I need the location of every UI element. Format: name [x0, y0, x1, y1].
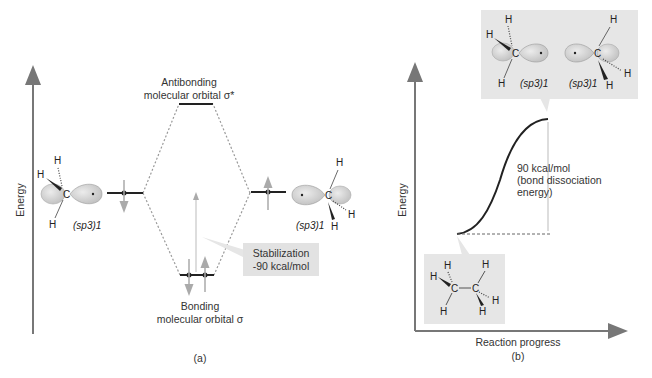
callout-pointer [202, 237, 245, 258]
figure-canvas: Energy Antibonding molecular orbital σ* [0, 0, 652, 378]
right-orbital-label: (sp3)1 [296, 220, 324, 231]
x-axis-label: Reaction progress [475, 336, 560, 348]
left-orbital-label: (sp3)1 [73, 220, 101, 231]
svg-text:H: H [331, 221, 338, 232]
svg-text:C: C [63, 189, 70, 200]
svg-text:H: H [430, 271, 437, 282]
right-methyl-radical: C H H H (sp3)1 [292, 157, 355, 232]
svg-text:H: H [610, 14, 617, 25]
dissociation-label-1: 90 kcal/mol [517, 162, 570, 174]
left-methyl-radical: C H H H (sp3)1 [37, 155, 102, 231]
svg-text:H: H [505, 14, 512, 25]
ethane-box [424, 254, 505, 324]
svg-text:C: C [325, 190, 332, 201]
svg-text:H: H [624, 68, 631, 79]
antibonding-label-2: molecular orbital σ* [144, 89, 235, 101]
svg-text:H: H [54, 155, 61, 166]
svg-text:C: C [594, 48, 601, 59]
panel-b: Energy Reaction progress (b) 90 kcal/mol… [396, 10, 638, 362]
caption-a: (a) [194, 352, 207, 364]
caption-b: (b) [512, 350, 525, 362]
energy-axis-label: Energy [14, 183, 26, 217]
stabilization-label-1: Stabilization [253, 247, 310, 259]
svg-text:H: H [348, 209, 355, 220]
svg-text:H: H [482, 259, 489, 270]
panel-a: Energy Antibonding molecular orbital σ* [14, 75, 355, 364]
antibonding-label-1: Antibonding [161, 76, 217, 88]
svg-text:C: C [512, 48, 519, 59]
svg-text:H: H [440, 306, 447, 317]
bonding-label-2: molecular orbital σ [157, 313, 244, 325]
svg-text:H: H [492, 295, 499, 306]
top-right-orbital-label: (sp3)1 [569, 78, 597, 89]
dissociation-label-2: (bond dissociation [517, 174, 602, 186]
svg-text:H: H [444, 260, 451, 271]
top-left-orbital-label: (sp3)1 [520, 78, 548, 89]
svg-text:H: H [49, 219, 56, 230]
energy-axis-label-b: Energy [396, 183, 408, 217]
stabilization-label-2: -90 kcal/mol [253, 260, 310, 272]
svg-text:H: H [336, 157, 343, 168]
svg-text:H: H [37, 169, 44, 180]
dissociation-label-3: energy) [517, 186, 553, 198]
bonding-label-1: Bonding [181, 300, 220, 312]
svg-text:C: C [472, 283, 479, 294]
svg-text:H: H [606, 80, 613, 91]
svg-text:H: H [486, 29, 493, 40]
svg-text:C: C [451, 283, 458, 294]
svg-text:H: H [479, 306, 486, 317]
svg-text:H: H [498, 78, 505, 89]
